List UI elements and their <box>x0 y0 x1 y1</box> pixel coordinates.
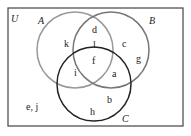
set-b-label: B <box>149 15 155 26</box>
region-f: f <box>92 55 96 66</box>
set-a-label: A <box>37 15 45 26</box>
region-l: l <box>93 39 96 50</box>
set-c-label: C <box>122 113 129 124</box>
set-b-circle <box>73 12 149 88</box>
universe-label: U <box>11 13 19 24</box>
venn-diagram: U A B C k d l c g f i a b h e, j <box>0 0 191 136</box>
region-i: i <box>74 67 77 78</box>
region-b: b <box>107 94 112 105</box>
region-outside: e, j <box>26 101 38 112</box>
region-only-a: k <box>64 38 69 49</box>
region-h: h <box>90 106 95 117</box>
region-c: c <box>122 38 127 49</box>
region-g: g <box>136 53 141 64</box>
region-d: d <box>92 24 97 35</box>
region-a: a <box>112 68 117 79</box>
